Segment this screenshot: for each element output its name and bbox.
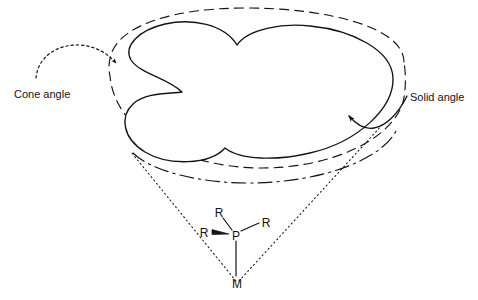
diagram-canvas: R R R P M Cone angle Solid angle	[0, 0, 478, 300]
cone-angle-label: Cone angle	[14, 88, 70, 100]
molecule-labels: R R R P M	[200, 206, 271, 291]
atom-label-p: P	[232, 229, 240, 243]
atom-label-r-right: R	[262, 216, 271, 230]
solid-angle-cloud	[125, 22, 393, 162]
solid-angle-label: Solid angle	[410, 91, 464, 103]
bond-p-r-left-wedge	[212, 230, 229, 235]
cone-angle-leader	[36, 45, 116, 78]
molecule-bonds	[212, 218, 259, 276]
atom-label-r-top: R	[215, 206, 224, 220]
atom-label-r-left: R	[200, 226, 209, 240]
bond-p-r-right	[241, 223, 259, 231]
atom-label-m: M	[232, 277, 242, 291]
cone-solid-angle-diagram: R R R P M Cone angle Solid angle	[0, 0, 478, 300]
bond-p-r-top	[223, 218, 232, 230]
